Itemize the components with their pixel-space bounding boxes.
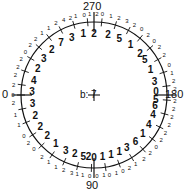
outer-ring-count: 2	[172, 106, 176, 112]
outer-ring-count: 0	[88, 173, 92, 179]
inner-ring-count: 3	[152, 76, 158, 87]
inner-ring-count: 0	[153, 86, 159, 97]
inner-ring-count: 1	[116, 146, 122, 157]
outer-ring-count: 1	[47, 25, 51, 31]
outer-ring-count: 0	[32, 146, 36, 152]
inner-ring-count: 1	[53, 138, 59, 149]
outer-ring-count: 0	[101, 11, 105, 17]
outer-ring-count: 2	[62, 167, 66, 173]
axis-label-top: 270	[83, 1, 101, 12]
outer-ring-count: 1	[47, 159, 51, 165]
inner-ring-count: 1	[80, 28, 86, 39]
axis-label-bottom: 90	[86, 180, 98, 191]
outer-ring-count: 1	[109, 13, 113, 19]
inner-ring-count: 2	[35, 63, 41, 74]
outer-ring-count: 1	[134, 161, 138, 167]
inner-ring-count: 3	[63, 145, 69, 156]
outer-ring-count: 0	[153, 38, 157, 44]
outer-ring-count: 1	[74, 13, 78, 19]
outer-ring-count: 2	[147, 32, 151, 38]
outer-ring-count: 1	[115, 170, 119, 176]
outer-ring-count: 0	[22, 133, 26, 139]
outer-ring-count: 2	[133, 22, 137, 28]
outer-ring-count: 2	[162, 52, 166, 58]
inner-ring-count: 2	[49, 44, 55, 55]
inner-ring-count: 1	[148, 64, 154, 75]
outer-ring-count: 0	[140, 26, 144, 32]
inner-ring-count: 7	[58, 37, 64, 48]
outer-ring-count: 0	[24, 49, 28, 55]
inner-ring-count: 2	[91, 28, 97, 39]
outer-ring-count: 1	[102, 172, 106, 178]
inner-ring-count: 3	[41, 53, 47, 64]
outer-ring-count: 2	[142, 156, 146, 162]
inner-ring-count: 4	[146, 119, 152, 130]
outer-ring-count: 2	[12, 100, 16, 106]
outer-ring-count: 2	[167, 122, 171, 128]
axis-label-left: 0	[2, 89, 8, 100]
inner-ring-count: 2	[137, 48, 143, 59]
inner-ring-count: 5	[116, 33, 122, 44]
outer-ring-count: 2	[40, 154, 44, 160]
outer-ring-count: 1	[14, 112, 18, 118]
outer-ring-count: 2	[27, 140, 31, 146]
inner-ring-count: 0	[91, 152, 97, 163]
outer-ring-count: 1	[17, 122, 21, 128]
outer-ring-count: 2	[117, 15, 121, 21]
inner-ring-count: 2	[105, 29, 111, 40]
inner-ring-count: 2	[33, 110, 39, 121]
outer-ring-count: 2	[69, 15, 73, 21]
inner-ring-count: 5	[142, 54, 148, 65]
outer-ring-count: 3	[125, 18, 129, 24]
inner-ring-count: 3	[29, 86, 35, 97]
outer-ring-count: 2	[54, 20, 58, 26]
outer-ring-count: 2	[128, 165, 132, 171]
outer-ring-count: 2	[164, 130, 168, 136]
outer-ring-count: 2	[159, 137, 163, 143]
outer-ring-count: 2	[28, 42, 32, 48]
inner-ring-count: 6	[133, 136, 139, 147]
outer-ring-count: 4	[62, 17, 66, 23]
axis-label-right: 180	[165, 89, 183, 100]
center-label: b: 7	[80, 90, 97, 100]
outer-ring-count: 2	[149, 150, 153, 156]
outer-ring-count: 3	[70, 170, 74, 176]
outer-ring-count: 2	[170, 114, 174, 120]
outer-ring-count: 1	[75, 171, 79, 177]
outer-ring-count: 2	[16, 64, 20, 70]
outer-ring-count: 2	[158, 44, 162, 50]
outer-ring-count: 0	[108, 172, 112, 178]
outer-ring-count: 2	[12, 82, 16, 88]
inner-ring-count: 2	[72, 148, 78, 159]
inner-ring-count: 3	[69, 32, 75, 43]
outer-ring-count: 0	[154, 144, 158, 150]
outer-ring-count: 1	[54, 164, 58, 170]
inner-ring-count: 2	[44, 130, 50, 141]
inner-ring-count: 2	[38, 121, 44, 132]
outer-ring-count: 1	[40, 30, 44, 36]
inner-ring-count: 1	[108, 149, 114, 160]
inner-ring-count: 3	[124, 142, 130, 153]
inner-ring-count: 1	[128, 39, 134, 50]
inner-ring-count: 1	[100, 151, 106, 162]
inner-ring-count: 4	[31, 75, 37, 86]
outer-ring-count: 2	[20, 56, 24, 62]
outer-ring-count: 2	[14, 72, 18, 78]
inner-ring-count: 3	[30, 98, 36, 109]
outer-ring-count: 0	[121, 168, 125, 174]
outer-ring-count: 2	[34, 36, 38, 42]
outer-ring-count: 2	[172, 78, 176, 84]
outer-ring-count: 0	[82, 12, 86, 18]
outer-ring-count: 1	[170, 70, 174, 76]
outer-ring-count: 0	[167, 62, 171, 68]
outer-ring-count: 1	[81, 172, 85, 178]
outer-ring-count: 1	[88, 11, 92, 17]
